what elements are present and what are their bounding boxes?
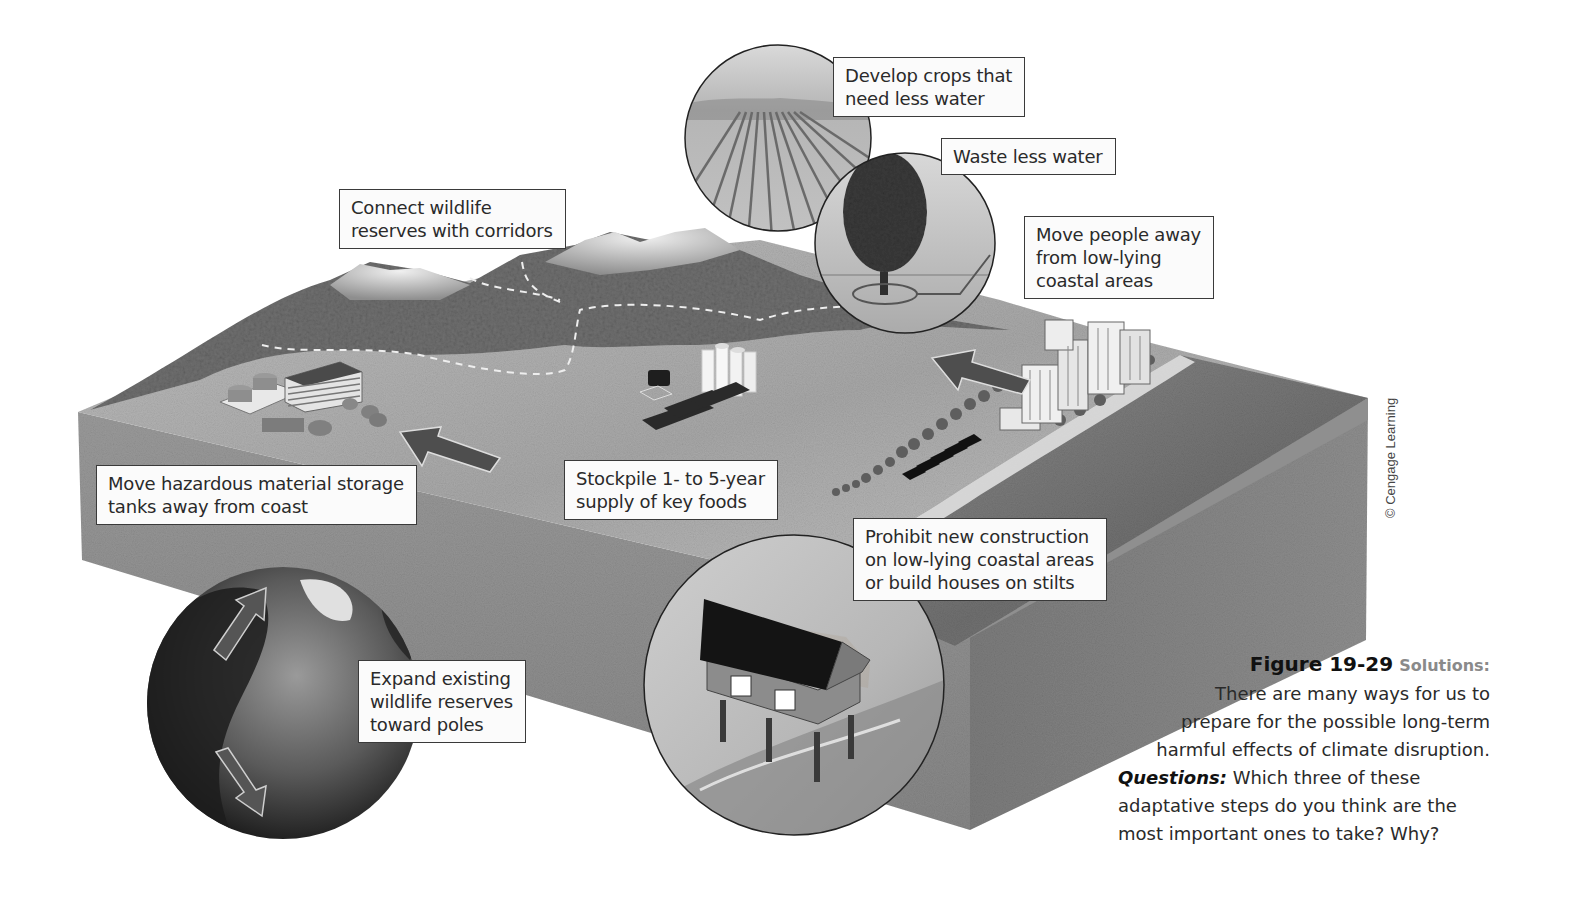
label-line: Develop crops that: [845, 64, 1012, 87]
label-line: supply of key foods: [576, 490, 765, 513]
label-expand-reserves: Expand existing wildlife reserves toward…: [358, 660, 526, 743]
label-line: tanks away from coast: [108, 495, 404, 518]
label-line: Stockpile 1- to 5-year: [576, 467, 765, 490]
label-line: on low-lying coastal areas: [865, 548, 1094, 571]
label-line: wildlife reserves: [370, 690, 513, 713]
label-develop-crops: Develop crops that need less water: [833, 57, 1025, 117]
label-connect-wildlife-corridors: Connect wildlife reserves with corridors: [339, 189, 566, 249]
caption-line: harmful effects of climate disruption.: [1110, 736, 1490, 764]
copyright-credit: © Cengage Learning: [1383, 398, 1398, 518]
label-move-hazardous-tanks: Move hazardous material storage tanks aw…: [96, 465, 417, 525]
label-line: need less water: [845, 87, 1012, 110]
label-line: Expand existing: [370, 667, 513, 690]
caption-line: adaptative steps do you think are the: [1110, 792, 1490, 820]
label-line: Move people away: [1036, 223, 1201, 246]
label-waste-less-water: Waste less water: [941, 138, 1116, 175]
figure-caption: Figure 19-29Solutions: There are many wa…: [1110, 650, 1490, 848]
label-line: coastal areas: [1036, 269, 1201, 292]
label-line: Connect wildlife: [351, 196, 553, 219]
caption-line: most important ones to take? Why?: [1110, 820, 1490, 848]
label-line: Move hazardous material storage: [108, 472, 404, 495]
caption-line: prepare for the possible long-term: [1110, 708, 1490, 736]
caption-title-line: Figure 19-29Solutions:: [1110, 650, 1490, 680]
label-line: toward poles: [370, 713, 513, 736]
label-move-people: Move people away from low-lying coastal …: [1024, 216, 1214, 299]
label-line: Waste less water: [953, 145, 1103, 168]
label-line: or build houses on stilts: [865, 571, 1094, 594]
caption-question-line: Questions: Which three of these: [1110, 764, 1490, 792]
figure-number: Figure 19-29: [1250, 652, 1393, 676]
label-line: from low-lying: [1036, 246, 1201, 269]
label-line: reserves with corridors: [351, 219, 553, 242]
label-stockpile-foods: Stockpile 1- to 5-year supply of key foo…: [564, 460, 778, 520]
figure-kicker: Solutions:: [1399, 656, 1490, 675]
question-text: Which three of these: [1233, 767, 1421, 788]
caption-line: There are many ways for us to: [1110, 680, 1490, 708]
questions-label: Questions:: [1118, 767, 1227, 788]
label-prohibit-construction: Prohibit new construction on low-lying c…: [853, 518, 1107, 601]
label-line: Prohibit new construction: [865, 525, 1094, 548]
